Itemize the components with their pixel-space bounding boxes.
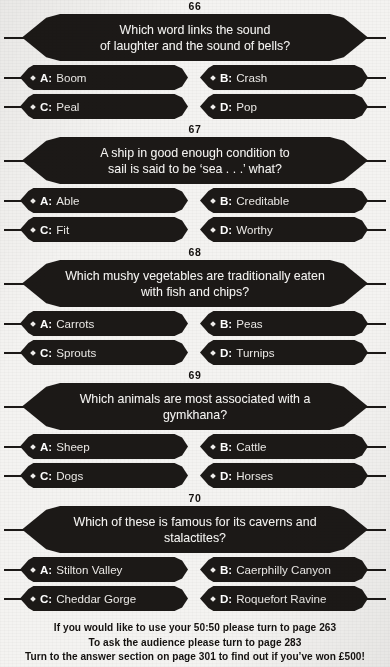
diamond-bullet-icon [210,75,216,81]
answer-content: C:Fit [20,217,188,242]
answer-row: C:FitD:Worthy [0,217,390,242]
answer-option[interactable]: D:Pop [200,94,368,119]
answer-row: A:BoomB:Crash [0,65,390,90]
answer-option[interactable]: A:Carrots [20,311,188,336]
answer-option[interactable]: B:Cattle [200,434,368,459]
answer-letter: D: [220,469,232,482]
page-footer: If you would like to use your 50:50 plea… [0,621,390,665]
answer-content: B:Creditable [200,188,368,213]
answer-row: A:Stilton ValleyB:Caerphilly Canyon [0,557,390,582]
answer-letter: C: [40,223,52,236]
answer-letter: B: [220,317,232,330]
answer-letter: B: [220,194,232,207]
answer-option[interactable]: B:Caerphilly Canyon [200,557,368,582]
diamond-bullet-icon [210,596,216,602]
diamond-bullet-icon [30,567,36,573]
diamond-bullet-icon [30,227,36,233]
answer-row: C:SproutsD:Turnips [0,340,390,365]
answer-content: A:Able [20,188,188,213]
answer-option[interactable]: D:Roquefort Ravine [200,586,368,611]
answer-tail [366,77,386,79]
question-text: Which of these is famous for its caverns… [0,506,390,553]
answer-content: C:Peal [20,94,188,119]
question-text-line: Which animals are most associated with a… [48,391,342,423]
answer-letter: A: [40,563,52,576]
answer-option[interactable]: D:Turnips [200,340,368,365]
answer-label: Caerphilly Canyon [236,563,331,576]
answer-content: C:Dogs [20,463,188,488]
answer-option[interactable]: B:Crash [200,65,368,90]
answer-letter: D: [220,223,232,236]
answer-letter: B: [220,563,232,576]
answer-content: D:Roquefort Ravine [200,586,368,611]
question-banner: Which mushy vegetables are traditionally… [0,260,390,307]
answer-content: B:Cattle [200,434,368,459]
answer-option[interactable]: B:Creditable [200,188,368,213]
question-text: Which mushy vegetables are traditionally… [0,260,390,307]
answer-row: C:DogsD:Horses [0,463,390,488]
answer-content: B:Caerphilly Canyon [200,557,368,582]
answer-option[interactable]: C:Sprouts [20,340,188,365]
answer-letter: A: [40,440,52,453]
diamond-bullet-icon [210,321,216,327]
answer-letter: B: [220,440,232,453]
answer-row: A:AbleB:Creditable [0,188,390,213]
question-banner: A ship in good enough condition tosail i… [0,137,390,184]
answer-tail [366,598,386,600]
question-list: 66Which word links the soundof laughter … [0,0,390,611]
answer-label: Cheddar Gorge [56,592,136,605]
question-block: 69Which animals are most associated with… [0,369,390,488]
answer-option[interactable]: A:Stilton Valley [20,557,188,582]
question-number: 70 [0,492,390,505]
answer-label: Boom [56,71,86,84]
diamond-bullet-icon [30,198,36,204]
question-number: 67 [0,123,390,136]
answer-option[interactable]: A:Boom [20,65,188,90]
diamond-bullet-icon [210,350,216,356]
diamond-bullet-icon [30,75,36,81]
answer-label: Roquefort Ravine [236,592,326,605]
answer-label: Dogs [56,469,83,482]
answer-content: A:Sheep [20,434,188,459]
answer-option[interactable]: D:Horses [200,463,368,488]
question-block: 68Which mushy vegetables are traditional… [0,246,390,365]
answer-letter: B: [220,71,232,84]
diamond-bullet-icon [30,473,36,479]
answer-option[interactable]: A:Able [20,188,188,213]
answer-option[interactable]: C:Cheddar Gorge [20,586,188,611]
diamond-bullet-icon [30,444,36,450]
answer-label: Fit [56,223,69,236]
answer-content: C:Sprouts [20,340,188,365]
answer-option[interactable]: C:Dogs [20,463,188,488]
answer-tail [366,475,386,477]
question-text: Which animals are most associated with a… [0,383,390,430]
question-banner: Which word links the soundof laughter an… [0,14,390,61]
answer-content: D:Worthy [200,217,368,242]
diamond-bullet-icon [30,350,36,356]
answer-option[interactable]: A:Sheep [20,434,188,459]
answer-letter: C: [40,100,52,113]
quiz-page: 66Which word links the soundof laughter … [0,0,390,667]
question-number: 69 [0,369,390,382]
answer-option[interactable]: B:Peas [200,311,368,336]
answer-letter: D: [220,346,232,359]
answer-option[interactable]: D:Worthy [200,217,368,242]
answer-content: B:Peas [200,311,368,336]
answer-tail [366,323,386,325]
answer-option[interactable]: C:Fit [20,217,188,242]
diamond-bullet-icon [210,444,216,450]
answer-content: D:Turnips [200,340,368,365]
question-block: 67A ship in good enough condition tosail… [0,123,390,242]
question-text-line: A ship in good enough condition to [100,145,289,161]
answer-label: Peal [56,100,79,113]
answer-row: C:Cheddar GorgeD:Roquefort Ravine [0,586,390,611]
answer-label: Sprouts [56,346,96,359]
answer-tail [366,352,386,354]
answer-label: Stilton Valley [56,563,122,576]
answer-label: Turnips [236,346,274,359]
diamond-bullet-icon [210,227,216,233]
answer-content: C:Cheddar Gorge [20,586,188,611]
answer-tail [366,229,386,231]
answer-content: D:Pop [200,94,368,119]
answer-option[interactable]: C:Peal [20,94,188,119]
